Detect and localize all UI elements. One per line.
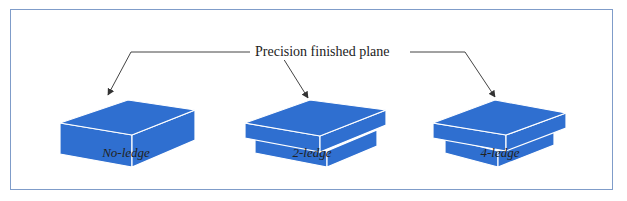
caption-no-ledge: No-ledge	[102, 145, 150, 161]
callout-label: Precision finished plane	[252, 44, 393, 60]
caption-4-ledge: 4-ledge	[481, 145, 520, 161]
caption-2-ledge: 2-ledge	[293, 145, 332, 161]
arrow-2-ledge	[283, 58, 308, 98]
arrow-no-ledge	[108, 52, 250, 95]
arrow-4-ledge	[410, 52, 495, 97]
diagram-canvas	[0, 0, 627, 201]
